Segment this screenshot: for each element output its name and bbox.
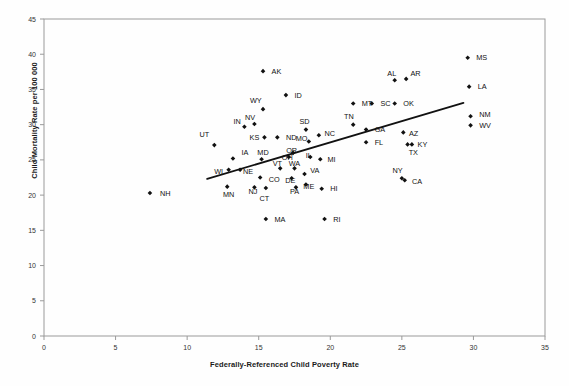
data-point-marker — [242, 124, 247, 129]
data-point-label: MI — [327, 155, 335, 164]
data-point-label: CA — [412, 177, 422, 186]
y-tick-label: 15 — [28, 227, 36, 234]
scatter-plot-figure: 05101520253035051015202530354045 NHUTWII… — [0, 0, 569, 386]
data-point-label: DE — [285, 176, 295, 185]
x-tick-label: 0 — [42, 344, 46, 351]
data-point-label: HI — [330, 184, 337, 193]
data-point-label: AZ — [409, 129, 419, 138]
data-point-label: KS — [250, 133, 260, 142]
data-point-marker — [212, 143, 217, 148]
data-point-marker — [364, 140, 369, 145]
data-point-label: OH — [282, 153, 293, 162]
data-point-label: OR — [286, 146, 297, 155]
data-point-label: ME — [303, 182, 314, 191]
point-labels: NHUTWIIAMNNEINNVWYKSNDMDCONJCTMAVTWADEPA… — [160, 53, 491, 223]
y-tick-label: 5 — [32, 297, 36, 304]
data-point-label: WY — [250, 96, 262, 105]
data-point-marker — [259, 157, 264, 162]
data-point-label: SD — [299, 117, 309, 126]
data-point-label: NM — [479, 110, 490, 119]
x-tick-label: 15 — [255, 344, 263, 351]
y-tick-label: 45 — [28, 16, 36, 23]
plot-canvas: 05101520253035051015202530354045 NHUTWII… — [0, 0, 569, 386]
data-points — [148, 55, 473, 221]
data-point-marker — [231, 156, 236, 161]
data-point-marker — [322, 217, 327, 222]
data-point-label: NV — [245, 113, 255, 122]
data-point-marker — [465, 55, 470, 60]
data-point-label: IN — [234, 117, 241, 126]
x-tick-label: 20 — [326, 344, 334, 351]
data-point-label: NC — [325, 129, 336, 138]
data-point-label: WI — [214, 167, 223, 176]
data-point-label: AR — [410, 69, 420, 78]
data-point-label: NJ — [249, 187, 258, 196]
data-point-label: MT — [362, 99, 373, 108]
x-tick-label: 5 — [114, 344, 118, 351]
y-tick-label: 10 — [28, 262, 36, 269]
data-point-label: RI — [333, 215, 340, 224]
data-point-label: VA — [310, 166, 319, 175]
x-tick-label: 35 — [541, 344, 549, 351]
data-point-marker — [261, 107, 266, 112]
data-point-label: WV — [479, 121, 491, 130]
data-point-marker — [284, 93, 289, 98]
data-point-label: CT — [260, 194, 270, 203]
data-point-marker — [410, 142, 415, 147]
data-point-marker — [148, 191, 153, 196]
x-tick-label: 30 — [470, 344, 478, 351]
data-point-label: AK — [272, 67, 282, 76]
data-point-label: TN — [344, 112, 354, 121]
data-point-marker — [275, 135, 280, 140]
data-point-label: TX — [409, 148, 418, 157]
data-point-label: OK — [403, 99, 414, 108]
data-point-marker — [302, 172, 307, 177]
data-point-marker — [317, 133, 322, 138]
x-tick-label: 10 — [183, 344, 191, 351]
data-point-label: NE — [243, 167, 253, 176]
data-point-label: NH — [160, 189, 171, 198]
data-point-marker — [318, 157, 323, 162]
data-point-label: GA — [375, 125, 386, 134]
data-point-label: SC — [380, 99, 390, 108]
data-point-marker — [264, 186, 269, 191]
data-point-label: IA — [242, 148, 249, 157]
data-point-marker — [467, 84, 472, 89]
data-point-label: NY — [392, 166, 402, 175]
data-point-label: MD — [257, 148, 268, 157]
data-point-marker — [304, 127, 309, 132]
data-point-marker — [252, 122, 257, 127]
data-point-label: CO — [269, 175, 280, 184]
data-point-label: PA — [290, 187, 299, 196]
data-point-marker — [258, 175, 263, 180]
data-point-label: KY — [418, 140, 428, 149]
data-point-marker — [262, 135, 267, 140]
data-point-label: LA — [478, 82, 487, 91]
data-point-marker — [261, 69, 266, 74]
data-point-label: ID — [295, 91, 302, 100]
y-axis-title: Child Mortality Rate per 100 000 — [30, 41, 39, 201]
data-point-marker — [319, 186, 324, 191]
data-point-marker — [351, 122, 356, 127]
data-point-marker — [468, 123, 473, 128]
data-point-label: UT — [199, 130, 209, 139]
data-point-label: MS — [476, 53, 487, 62]
y-tick-label: 0 — [32, 333, 36, 340]
x-tick-label: 25 — [398, 344, 406, 351]
data-point-marker — [401, 130, 406, 135]
data-point-marker — [468, 114, 473, 119]
data-point-label: MA — [274, 215, 285, 224]
data-point-label: MN — [223, 190, 234, 199]
data-point-label: FL — [375, 138, 384, 147]
data-point-marker — [405, 142, 410, 147]
data-point-marker — [404, 77, 409, 82]
data-point-marker — [392, 101, 397, 106]
x-axis-title: Federally-Referenced Child Poverty Rate — [0, 360, 569, 369]
data-point-label: AL — [387, 69, 396, 78]
data-point-label: IL — [306, 151, 312, 160]
data-point-marker — [225, 184, 230, 189]
data-point-marker — [264, 217, 269, 222]
data-point-marker — [392, 78, 397, 83]
data-point-label: MO — [296, 134, 308, 143]
data-point-marker — [351, 101, 356, 106]
